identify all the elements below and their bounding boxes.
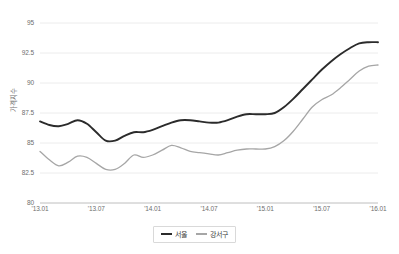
y-tick-label: 87.5 bbox=[8, 109, 34, 116]
legend-label-gangseo-gu: 강서구 bbox=[210, 229, 228, 239]
x-tick-label: '14.01 bbox=[136, 205, 170, 212]
legend-item-gangseo-gu[interactable]: 강서구 bbox=[196, 229, 228, 239]
x-tick-label: '14.07 bbox=[192, 205, 226, 212]
legend-swatch-seoul bbox=[161, 233, 172, 235]
x-tick-label: '13.01 bbox=[23, 205, 57, 212]
y-tick-label: 92.5 bbox=[8, 49, 34, 56]
series-paths bbox=[40, 42, 378, 170]
series-line-gangseo-gu bbox=[40, 65, 378, 170]
chart-legend: 서울 강서구 bbox=[153, 226, 236, 243]
x-tick-label: '13.07 bbox=[79, 205, 113, 212]
y-tick-label: 95 bbox=[8, 19, 34, 26]
series-line-seoul bbox=[40, 42, 378, 141]
x-tick-label: '16.01 bbox=[361, 205, 395, 212]
y-tick-label: 82.5 bbox=[8, 169, 34, 176]
price-index-line-chart: 가격지수 8082.58587.59092.595 '13.01'13.07'1… bbox=[0, 0, 399, 254]
x-tick-label: '15.01 bbox=[248, 205, 282, 212]
legend-swatch-gangseo-gu bbox=[196, 233, 207, 235]
y-tick-label: 90 bbox=[8, 79, 34, 86]
gridlines bbox=[40, 23, 378, 203]
legend-item-seoul[interactable]: 서울 bbox=[161, 229, 187, 239]
plot-area bbox=[0, 0, 399, 254]
legend-label-seoul: 서울 bbox=[175, 229, 187, 239]
y-tick-label: 85 bbox=[8, 139, 34, 146]
x-tick-label: '15.07 bbox=[305, 205, 339, 212]
